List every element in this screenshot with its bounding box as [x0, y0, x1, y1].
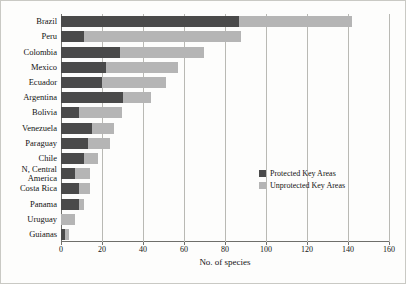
bar-segment-protected [61, 92, 123, 103]
category-label: Venezuela [0, 124, 57, 133]
bar-segment-unprotected [84, 153, 98, 164]
tick-label: 140 [342, 245, 354, 254]
bar-row [61, 77, 166, 88]
tick-label: 20 [98, 245, 106, 254]
bar-segment-protected [61, 123, 92, 134]
bar-row [61, 92, 151, 103]
legend-swatch [259, 182, 266, 189]
category-axis-labels: BrazilPeruColombiaMexicoEcuadorArgentina… [0, 14, 57, 242]
category-label: Uruguay [0, 215, 57, 224]
bar-segment-unprotected [102, 77, 166, 88]
category-label: Costa Rica [0, 184, 57, 193]
category-label: Paraguay [0, 139, 57, 148]
tick-label: 160 [383, 245, 395, 254]
gridline [307, 14, 308, 242]
tick-label: 120 [301, 245, 313, 254]
category-label: Peru [0, 32, 57, 41]
bar-row [61, 31, 241, 42]
legend-label: Protected Key Areas [270, 169, 336, 178]
tick-label: 60 [180, 245, 188, 254]
legend-swatch [259, 170, 266, 177]
bar-segment-unprotected [123, 92, 152, 103]
gridline [266, 14, 267, 242]
category-label: Panama [0, 200, 57, 209]
bar-segment-unprotected [65, 229, 69, 240]
bar-segment-unprotected [106, 62, 178, 73]
bar-row [61, 47, 204, 58]
category-label: Chile [0, 154, 57, 163]
bar-segment-unprotected [79, 183, 89, 194]
bar-segment-unprotected [61, 214, 75, 225]
chart-figure: BrazilPeruColombiaMexicoEcuadorArgentina… [0, 0, 406, 284]
bar-segment-protected [61, 31, 84, 42]
category-label: N, CentralAmerica [0, 165, 57, 183]
bar-row [61, 16, 352, 27]
bar-row [61, 138, 110, 149]
bar-segment-unprotected [88, 138, 111, 149]
bar-row [61, 168, 90, 179]
bar-segment-protected [61, 183, 79, 194]
bar-row [61, 107, 122, 118]
bar-segment-unprotected [84, 31, 242, 42]
bar-row [61, 123, 114, 134]
gridline [348, 14, 349, 242]
bar-segment-protected [61, 199, 79, 210]
bar-segment-protected [61, 153, 84, 164]
bar-segment-protected [61, 16, 239, 27]
gridline [389, 14, 390, 242]
bar-segment-protected [61, 77, 102, 88]
category-label: Brazil [0, 17, 57, 26]
bar-row [61, 229, 69, 240]
tick-label: 0 [59, 245, 63, 254]
tick-label: 40 [139, 245, 147, 254]
tick-label: 100 [260, 245, 272, 254]
bar-row [61, 153, 98, 164]
gridline [225, 14, 226, 242]
category-label: Ecuador [0, 78, 57, 87]
bar-segment-unprotected [79, 199, 83, 210]
bar-row [61, 183, 90, 194]
chart-legend: Protected Key AreasUnprotected Key Areas [259, 169, 345, 193]
legend-label: Unprotected Key Areas [270, 181, 345, 190]
category-label: Colombia [0, 48, 57, 57]
bar-row [61, 214, 75, 225]
bar-segment-protected [61, 138, 88, 149]
legend-item: Protected Key Areas [259, 169, 345, 178]
bar-row [61, 199, 84, 210]
category-label: Guianas [0, 230, 57, 239]
bar-segment-protected [61, 168, 75, 179]
bar-segment-protected [61, 47, 120, 58]
bar-segment-unprotected [239, 16, 352, 27]
bar-segment-unprotected [120, 47, 204, 58]
category-label: Bolivia [0, 108, 57, 117]
legend-item: Unprotected Key Areas [259, 181, 345, 190]
plot-area [61, 14, 389, 242]
bar-segment-unprotected [75, 168, 89, 179]
bar-segment-unprotected [79, 107, 122, 118]
category-label: Mexico [0, 63, 57, 72]
bar-segment-protected [61, 107, 79, 118]
bar-segment-unprotected [92, 123, 115, 134]
x-axis-title: No. of species [61, 257, 389, 267]
tick-label: 80 [221, 245, 229, 254]
bar-row [61, 62, 178, 73]
category-label: Argentina [0, 93, 57, 102]
bar-segment-protected [61, 62, 106, 73]
